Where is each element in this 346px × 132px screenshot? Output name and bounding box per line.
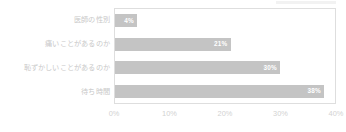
category-axis: 医師の性別 痛いことがあるのか 恥ずかしいことがあるのか 待ち時間 <box>0 8 114 104</box>
x-tick-label-2: 20% <box>218 110 233 117</box>
bar-value-label-2: 30% <box>264 65 280 71</box>
x-tick-label-3: 30% <box>273 110 288 117</box>
bars-container: 4% 21% 30% 38% <box>115 9 335 103</box>
x-axis: 0% 10% 20% 30% 40% <box>114 106 336 124</box>
plot-area: 4% 21% 30% 38% <box>114 8 336 104</box>
bar-row: 4% <box>115 14 335 27</box>
bar-2[interactable]: 30% <box>115 61 280 74</box>
bar-1[interactable]: 21% <box>115 38 231 51</box>
x-tick-label-0: 0% <box>109 110 120 117</box>
bar-value-label-1: 21% <box>214 41 230 47</box>
x-tick-label-4: 40% <box>329 110 344 117</box>
bar-row: 21% <box>115 38 335 51</box>
category-label-0: 医師の性別 <box>74 16 114 23</box>
bar-3[interactable]: 38% <box>115 85 324 98</box>
bar-row: 38% <box>115 85 335 98</box>
category-label-3: 待ち時間 <box>81 88 114 95</box>
category-label-2: 恥ずかしいことがあるのか <box>24 64 114 71</box>
x-tick-label-1: 10% <box>162 110 177 117</box>
cropped-top-artifact <box>276 1 336 4</box>
category-label-1: 痛いことがあるのか <box>45 40 114 47</box>
bar-value-label-0: 4% <box>124 18 137 24</box>
bar-chart-figure: 医師の性別 痛いことがあるのか 恥ずかしいことがあるのか 待ち時間 4% 21%… <box>0 0 346 132</box>
bar-row: 30% <box>115 61 335 74</box>
bar-value-label-3: 38% <box>308 88 324 94</box>
bar-0[interactable]: 4% <box>115 14 137 27</box>
